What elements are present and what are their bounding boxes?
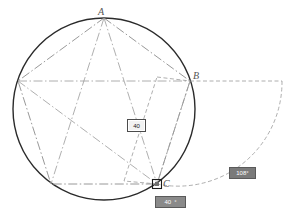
- angle-dimension-value: 108°: [236, 170, 248, 176]
- inscribed-pentagon[interactable]: [18, 18, 190, 184]
- vertex-label-b: B: [193, 70, 199, 81]
- angle-construction-arc[interactable]: [157, 81, 282, 186]
- coordinate-input-badge[interactable]: 40 °: [155, 196, 186, 208]
- length-dimension-value: 40: [133, 123, 140, 129]
- angle-dimension-badge[interactable]: 108°: [229, 167, 256, 179]
- coordinate-input-secondary: °: [174, 199, 176, 205]
- vertex-label-c: C: [163, 178, 170, 189]
- vertex-label-a: A: [98, 6, 104, 17]
- circumscribed-circle[interactable]: [13, 18, 195, 200]
- pentagon-diagonals: [18, 18, 190, 184]
- coordinate-input-primary: 40: [164, 199, 171, 205]
- drawing-canvas[interactable]: A B C 40 108° 40 °: [0, 0, 298, 219]
- length-dimension-badge[interactable]: 40: [127, 119, 146, 132]
- geometry-svg: [0, 0, 298, 219]
